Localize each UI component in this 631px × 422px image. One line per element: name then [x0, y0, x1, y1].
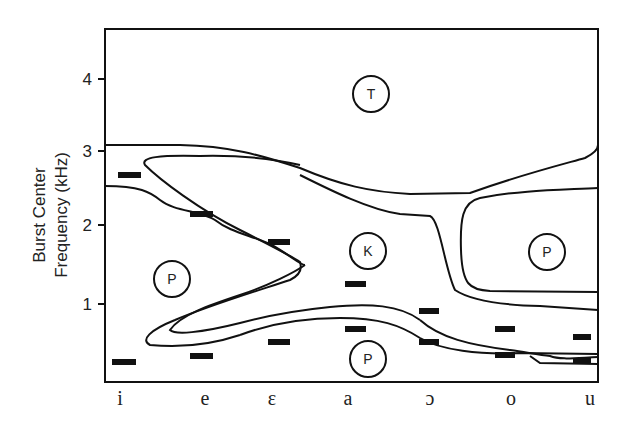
- x-category-label: i: [117, 387, 123, 409]
- x-category-label: e: [201, 387, 210, 409]
- y-axis: 4 3 2 1: [83, 70, 105, 314]
- x-axis: i e ɛ a ɔ o u: [117, 387, 595, 409]
- f1-bar-e: [190, 353, 213, 359]
- y-axis-title: Burst Center Frequency (kHz): [30, 152, 71, 278]
- f2-bar-open-o: [419, 308, 439, 314]
- f2-bar-e: [190, 211, 213, 217]
- x-category-label: o: [506, 387, 516, 409]
- k-region-label: K: [363, 243, 373, 259]
- f1-bar-u: [573, 358, 591, 364]
- p-region-right-label: P: [542, 244, 551, 260]
- x-category-label: a: [344, 387, 353, 409]
- burst-frequency-chart: 4 3 2 1 Burst Center Frequency (kHz) i e…: [0, 0, 631, 422]
- y-axis-title-line1: Burst Center: [30, 167, 49, 263]
- y-axis-title-line2: Frequency (kHz): [52, 152, 71, 278]
- f2-bar-eh: [268, 239, 290, 245]
- f2-bar-o: [495, 326, 515, 332]
- f1-bar-i: [112, 359, 136, 365]
- f2-bar-u: [573, 334, 591, 340]
- f1-bar-o: [495, 352, 515, 358]
- x-category-label: ɛ: [268, 387, 276, 409]
- f1-bar-a: [345, 326, 366, 332]
- f1-bar-eh: [268, 339, 290, 345]
- p-region-left-label: P: [167, 271, 176, 287]
- y-tick-label: 1: [83, 295, 92, 314]
- y-tick-label: 2: [83, 216, 92, 235]
- p-region-bottom-label: P: [363, 351, 372, 367]
- f2-bar-i: [118, 172, 141, 178]
- x-category-label: u: [585, 387, 595, 409]
- t-region-label: T: [367, 86, 376, 102]
- f1-bar-open-o: [419, 339, 439, 345]
- y-tick-label: 4: [83, 70, 92, 89]
- formant-bars: [112, 172, 591, 365]
- f2-bar-a: [345, 281, 366, 287]
- x-category-label: ɔ: [426, 387, 435, 409]
- y-tick-label: 3: [83, 142, 92, 161]
